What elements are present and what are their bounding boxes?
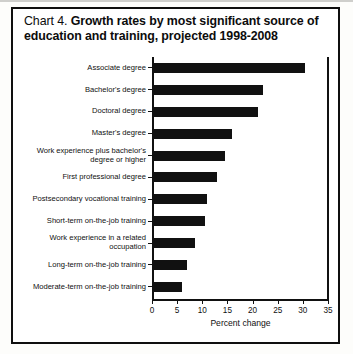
y-axis-tick xyxy=(148,89,152,90)
x-axis-tick xyxy=(202,299,203,304)
bar-category-label: Work experience plus bachelor's degree o… xyxy=(18,147,146,164)
bar-row: Work experience plus bachelor's degree o… xyxy=(152,145,328,167)
bar xyxy=(152,238,195,248)
bar-rows: Associate degreeBachelor's degreeDoctora… xyxy=(152,57,328,298)
bar-row: Work experience in a related occupation xyxy=(152,232,328,254)
bar-category-label: Long-term on-the-job training xyxy=(18,261,146,270)
y-axis-tick xyxy=(148,111,152,112)
chart-figure: Chart 4. Growth rates by most significan… xyxy=(0,0,353,354)
x-axis-tick xyxy=(303,299,304,304)
chart-title: Chart 4. Growth rates by most significan… xyxy=(24,14,329,44)
bar-category-label: Doctoral degree xyxy=(18,107,146,116)
bar xyxy=(152,194,207,204)
bar-category-label: Moderate-term on-the-job training xyxy=(18,283,146,292)
bar-category-label: Work experience in a related occupation xyxy=(18,234,146,251)
bar-category-label: Postsecondary vocational training xyxy=(18,195,146,204)
bar-row: Short-term on-the-job training xyxy=(152,210,328,232)
bar xyxy=(152,151,225,161)
bar-category-label: Associate degree xyxy=(18,64,146,73)
bar-row: Moderate-term on-the-job training xyxy=(152,276,328,298)
y-axis-tick xyxy=(148,67,152,68)
bar xyxy=(152,129,232,139)
x-axis-tick-label: 35 xyxy=(323,306,332,315)
bar-category-label: First professional degree xyxy=(18,173,146,182)
y-axis-tick xyxy=(148,177,152,178)
bar-row: Doctoral degree xyxy=(152,101,328,123)
bar xyxy=(152,172,217,182)
bar xyxy=(152,107,258,117)
bar xyxy=(152,63,305,73)
chart-title-number: Chart 4. xyxy=(24,14,71,28)
bar-row: Postsecondary vocational training xyxy=(152,188,328,210)
x-axis-tick xyxy=(227,299,228,304)
bar-row: Long-term on-the-job training xyxy=(152,254,328,276)
x-axis-label: Percent change xyxy=(152,318,329,328)
x-axis-tick-label: 30 xyxy=(298,306,307,315)
bar-category-label: Bachelor's degree xyxy=(18,86,146,95)
y-axis-tick xyxy=(148,199,152,200)
scan-edge-rule xyxy=(0,0,353,2)
bar-row: First professional degree xyxy=(152,166,328,188)
x-axis-tick-label: 10 xyxy=(198,306,207,315)
y-axis-tick xyxy=(148,221,152,222)
bar-row: Master's degree xyxy=(152,123,328,145)
x-axis-tick xyxy=(328,299,329,304)
y-axis-tick xyxy=(148,264,152,265)
y-axis-tick xyxy=(148,155,152,156)
bar xyxy=(152,216,205,226)
x-axis-tick xyxy=(278,299,279,304)
bar-category-label: Master's degree xyxy=(18,129,146,138)
bar xyxy=(152,282,182,292)
bar-category-label: Short-term on-the-job training xyxy=(18,217,146,226)
x-axis-tick-label: 25 xyxy=(273,306,282,315)
x-axis-tick-label: 5 xyxy=(175,306,180,315)
y-axis-tick xyxy=(148,133,152,134)
x-axis-tick-label: 0 xyxy=(150,306,155,315)
y-axis-tick xyxy=(148,243,152,244)
x-axis-tick-label: 20 xyxy=(248,306,257,315)
x-axis-tick xyxy=(152,299,153,304)
x-axis-tick xyxy=(253,299,254,304)
bar-row: Associate degree xyxy=(152,57,328,79)
x-axis-tick xyxy=(177,299,178,304)
bar xyxy=(152,260,187,270)
x-axis-tick-label: 15 xyxy=(223,306,232,315)
bar xyxy=(152,85,263,95)
y-axis-tick xyxy=(148,286,152,287)
bar-row: Bachelor's degree xyxy=(152,79,328,101)
